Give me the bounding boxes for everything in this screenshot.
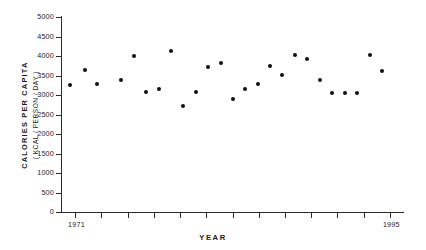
y-axis-tick <box>56 154 61 155</box>
x-axis-title: YEAR <box>0 233 426 242</box>
y-axis-tick-label: 2000 <box>37 130 54 137</box>
y-axis-tick <box>56 95 61 96</box>
x-axis-tick <box>75 213 76 218</box>
data-point <box>368 53 372 57</box>
x-axis-tick <box>101 213 102 218</box>
x-axis-tick-label: 1971 <box>68 221 85 228</box>
data-point <box>243 87 247 91</box>
y-axis-tick <box>56 173 61 174</box>
data-point <box>268 64 272 68</box>
y-axis-tick-label: 3500 <box>37 72 54 79</box>
y-axis-tick-label: 2500 <box>37 111 54 118</box>
data-point <box>157 87 161 91</box>
data-point <box>293 53 297 57</box>
y-axis-tick-label: 4000 <box>37 52 54 59</box>
data-point <box>68 83 72 87</box>
data-point <box>343 91 347 95</box>
data-point <box>132 54 136 58</box>
x-axis-tick <box>206 213 207 218</box>
scatter-chart: CALORIES PER CAPITA ( KCAL / PERSON / DA… <box>0 0 426 250</box>
y-axis-tick-label: 1000 <box>37 169 54 176</box>
data-point <box>305 57 309 61</box>
x-axis-tick <box>285 213 286 218</box>
y-axis-tick <box>56 56 61 57</box>
y-axis-title-main: CALORIES PER CAPITA <box>21 61 30 168</box>
data-point <box>330 91 334 95</box>
x-axis-tick <box>154 213 155 218</box>
y-axis-tick <box>56 134 61 135</box>
y-axis-tick <box>56 212 61 213</box>
y-axis-tick <box>56 193 61 194</box>
x-axis-tick <box>233 213 234 218</box>
data-point <box>181 104 185 108</box>
y-axis-tick-label: 1500 <box>37 150 54 157</box>
plot-area <box>62 17 403 212</box>
data-point <box>219 61 223 65</box>
y-axis-tick <box>56 17 61 18</box>
data-point <box>380 69 384 73</box>
data-point <box>355 91 359 95</box>
data-point <box>280 73 284 77</box>
x-axis-tick <box>259 213 260 218</box>
data-point <box>119 78 123 82</box>
y-axis-tick-label: 5000 <box>37 13 54 20</box>
x-axis-tick <box>180 213 181 218</box>
data-point <box>83 68 87 72</box>
x-axis-tick <box>364 213 365 218</box>
x-axis-tick <box>311 213 312 218</box>
data-point <box>256 82 260 86</box>
data-point <box>194 90 198 94</box>
data-point <box>169 49 173 53</box>
y-axis-tick-label: 500 <box>41 189 54 196</box>
data-point <box>231 97 235 101</box>
x-axis-tick <box>128 213 129 218</box>
data-point <box>206 65 210 69</box>
x-axis-tick <box>337 213 338 218</box>
data-point <box>318 78 322 82</box>
data-point <box>144 90 148 94</box>
y-axis-tick <box>56 76 61 77</box>
y-axis-tick-label: 3000 <box>37 91 54 98</box>
y-axis-tick-label: 0 <box>50 208 54 215</box>
x-axis-tick-label: 1995 <box>383 221 400 228</box>
data-point <box>95 82 99 86</box>
y-axis-tick <box>56 115 61 116</box>
y-axis-tick <box>56 37 61 38</box>
x-axis-tick <box>390 213 391 218</box>
y-axis-tick-label: 4500 <box>37 33 54 40</box>
